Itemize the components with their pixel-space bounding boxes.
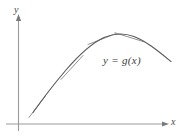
curve-equation-label: y = g(x) — [103, 54, 141, 66]
tangent-segment-midleft — [61, 56, 83, 80]
x-axis-label: x — [171, 117, 175, 127]
curve-g-of-x — [33, 34, 171, 113]
y-axis-label: y — [14, 5, 18, 15]
figure-canvas — [0, 0, 182, 139]
x-axis-arrow-icon — [162, 121, 169, 126]
math-figure: y x y = g(x) — [0, 0, 182, 139]
y-axis-arrow-icon — [16, 14, 21, 21]
